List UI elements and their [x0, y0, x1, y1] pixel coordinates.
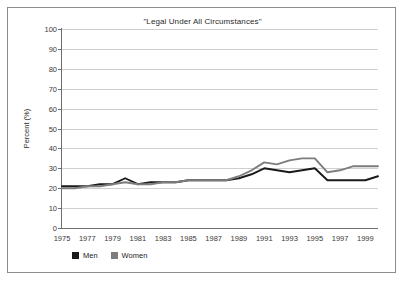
legend-item-women: Women	[111, 251, 148, 260]
y-tick-mark	[58, 228, 62, 229]
chart-title: "Legal Under All Circumstances"	[8, 17, 397, 26]
y-tick-label: 60	[23, 104, 57, 113]
y-tick-label: 80	[23, 64, 57, 73]
legend-swatch-women	[111, 252, 118, 259]
y-tick-label: 10	[23, 204, 57, 213]
y-tick-label: 40	[23, 144, 57, 153]
legend-swatch-men	[72, 252, 79, 259]
y-tick-label: 70	[23, 84, 57, 93]
chart-legend: Men Women	[72, 251, 147, 260]
plot-area: 1009080706050403020100 19751977197919811…	[62, 29, 378, 228]
y-tick-label: 30	[23, 164, 57, 173]
y-tick-label: 20	[23, 184, 57, 193]
x-tick-label: 1999	[350, 234, 380, 243]
chart-frame: "Legal Under All Circumstances" Percent …	[7, 7, 396, 273]
legend-item-men: Men	[72, 251, 98, 260]
y-tick-label: 90	[23, 44, 57, 53]
y-tick-label: 50	[23, 124, 57, 133]
legend-label-women: Women	[122, 251, 148, 260]
legend-label-men: Men	[83, 251, 98, 260]
chart-figure: "Legal Under All Circumstances" Percent …	[8, 8, 397, 274]
x-axis-line	[61, 228, 378, 229]
y-tick-label: 0	[23, 224, 57, 233]
y-tick-label: 100	[23, 25, 57, 34]
series-lines	[62, 29, 378, 228]
